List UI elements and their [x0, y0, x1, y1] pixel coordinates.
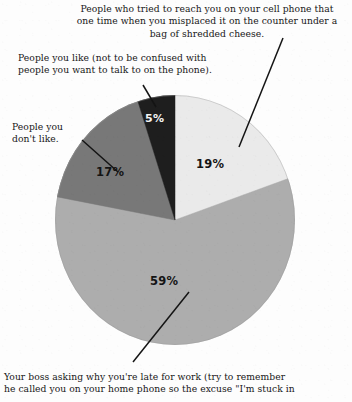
slice-value-label-people-you-like: 5% — [145, 112, 164, 125]
slice-value-label-boss: 59% — [150, 274, 178, 288]
annotation-people-you-like: People you like (not to be confused with… — [18, 52, 236, 77]
slice-value-label-dont-like: 17% — [96, 165, 124, 179]
slice-value-label-cell-phone: 19% — [196, 157, 224, 171]
annotation-cell-phone: People who tried to reach you on your ce… — [66, 3, 348, 40]
pie-chart-page: 19% 5% 17% 59% People who tried to reach… — [0, 0, 352, 402]
annotation-dont-like: People you don't like. — [12, 121, 116, 146]
annotation-boss: Your boss asking why you're late for wor… — [4, 371, 350, 396]
